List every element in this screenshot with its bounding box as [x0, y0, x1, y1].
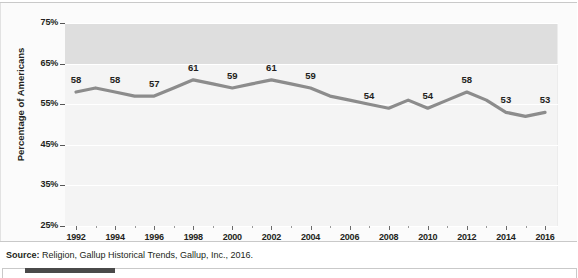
x-tick-2008: [389, 226, 390, 230]
y-tick-mark-75: [60, 23, 65, 24]
x-tick-2015: [526, 226, 527, 228]
data-label-2014: 53: [493, 94, 519, 105]
y-tick-mark-55: [60, 104, 65, 105]
x-tick-label-1992: 1992: [56, 232, 96, 242]
x-tick-1993: [96, 226, 97, 228]
x-tick-1995: [135, 226, 136, 228]
data-label-1998: 61: [180, 62, 206, 73]
data-label-1996: 57: [141, 78, 167, 89]
y-tick-label-35: 35%: [20, 179, 58, 189]
data-label-2010: 54: [415, 90, 441, 101]
data-label-2012: 58: [454, 74, 480, 85]
data-line-series: [65, 23, 558, 226]
x-tick-label-2010: 2010: [408, 232, 448, 242]
x-tick-2016: [545, 226, 546, 230]
x-tick-2006: [350, 226, 351, 230]
x-tick-2003: [291, 226, 292, 228]
x-axis: 1992199419961998200020022004200620082010…: [65, 226, 558, 248]
y-tick-mark-45: [60, 145, 65, 146]
data-label-2002: 61: [258, 62, 284, 73]
y-tick-label-65: 65%: [20, 58, 58, 68]
x-tick-2002: [271, 226, 272, 230]
x-tick-label-2004: 2004: [291, 232, 331, 242]
source-label: Source:: [6, 250, 40, 260]
x-tick-2005: [330, 226, 331, 228]
x-tick-1996: [154, 226, 155, 230]
x-tick-label-1998: 1998: [173, 232, 213, 242]
x-tick-1998: [193, 226, 194, 230]
x-tick-2012: [467, 226, 468, 230]
x-tick-label-2000: 2000: [212, 232, 252, 242]
x-tick-2004: [311, 226, 312, 230]
page-bottom-marker: [25, 268, 115, 273]
chart-frame: 585857615961595454585353 75%65%55%45%35%…: [0, 2, 577, 242]
x-tick-label-2012: 2012: [447, 232, 487, 242]
data-label-2004: 59: [298, 70, 324, 81]
source-note: Source: Religion, Gallup Historical Tren…: [6, 250, 253, 260]
x-tick-label-2008: 2008: [369, 232, 409, 242]
data-label-1994: 58: [102, 74, 128, 85]
x-tick-label-1996: 1996: [134, 232, 174, 242]
x-tick-label-1994: 1994: [95, 232, 135, 242]
y-tick-label-25: 25%: [20, 220, 58, 230]
y-axis-title: Percentage of Americans: [15, 5, 26, 205]
y-tick-mark-65: [60, 64, 65, 65]
y-tick-label-55: 55%: [20, 98, 58, 108]
x-tick-label-2002: 2002: [251, 232, 291, 242]
x-tick-2000: [232, 226, 233, 230]
data-label-2007: 54: [356, 90, 382, 101]
x-tick-label-2014: 2014: [486, 232, 526, 242]
chart-figure: 585857615961595454585353 75%65%55%45%35%…: [0, 0, 578, 278]
x-tick-2001: [252, 226, 253, 228]
x-tick-2007: [369, 226, 370, 228]
source-text: Religion, Gallup Historical Trends, Gall…: [40, 250, 254, 260]
x-tick-2010: [428, 226, 429, 230]
x-tick-2013: [486, 226, 487, 228]
x-tick-2011: [447, 226, 448, 228]
x-tick-1997: [174, 226, 175, 228]
data-label-1992: 58: [63, 74, 89, 85]
y-tick-mark-35: [60, 185, 65, 186]
data-label-2000: 59: [219, 70, 245, 81]
x-tick-1992: [76, 226, 77, 230]
y-tick-label-75: 75%: [20, 17, 58, 27]
data-label-2016: 53: [532, 94, 558, 105]
x-tick-1994: [115, 226, 116, 230]
x-tick-label-2006: 2006: [330, 232, 370, 242]
x-tick-2009: [408, 226, 409, 228]
x-tick-1999: [213, 226, 214, 228]
plot-area: 585857615961595454585353: [65, 23, 558, 226]
x-tick-2014: [506, 226, 507, 230]
y-tick-label-45: 45%: [20, 139, 58, 149]
x-tick-label-2016: 2016: [525, 232, 565, 242]
